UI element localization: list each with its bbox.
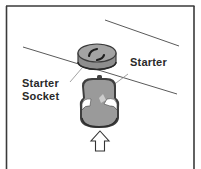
starter-label: Starter [130, 56, 167, 69]
starter-label-text: Starter [130, 56, 167, 68]
starter-socket-label-line1: Starter [22, 77, 59, 90]
starter-socket-icon [78, 44, 116, 70]
starter-socket-label: Starter Socket [22, 77, 59, 103]
starter-icon [80, 75, 119, 128]
starter-socket-label-line2: Socket [22, 90, 59, 103]
arrow-up-icon [91, 131, 109, 151]
